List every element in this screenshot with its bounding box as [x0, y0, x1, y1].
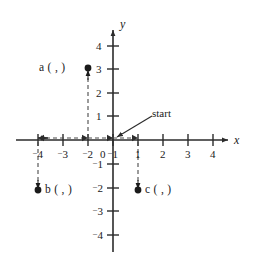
- start-annotation-leader: [117, 116, 152, 137]
- dashed-connectors: [38, 75, 138, 182]
- x-tick-label-1: 1: [135, 149, 141, 160]
- point-b-label: b ( , ): [45, 184, 72, 196]
- x-axis-label: x: [234, 134, 239, 146]
- x-tick-label-3: 3: [185, 149, 191, 160]
- y-tick-label-3: 3: [96, 64, 102, 75]
- x-tick-label-neg3: 3: [58, 149, 68, 160]
- coordinate-plane-svg: [0, 0, 258, 274]
- y-tick-label-2: 2: [96, 88, 102, 99]
- start-annotation-label: start: [152, 108, 171, 119]
- point-c-label: c ( , ): [145, 184, 171, 196]
- y-tick-label-neg4: 4: [93, 230, 103, 241]
- x-tick-label-4: 4: [210, 149, 216, 160]
- x-tick-label-2: 2: [160, 149, 166, 160]
- y-tick-label-1: 1: [96, 111, 102, 122]
- x-tick-label-neg1: 1: [108, 149, 118, 160]
- x-tick-label-neg4: 4: [33, 149, 43, 160]
- point-c-dot[interactable]: [135, 187, 142, 194]
- point-a-dot[interactable]: [85, 65, 92, 72]
- y-tick-label-neg2: 2: [93, 183, 103, 194]
- y-tick-label-neg3: 3: [93, 206, 103, 217]
- coordinate-plane-figure: x y 4 3 2 1 0 1 2 3 4 4 3 2 1 1 2 3 4 a …: [0, 0, 258, 274]
- y-axis-label: y: [120, 18, 125, 30]
- point-b-dot[interactable]: [35, 187, 42, 194]
- y-tick-label-4: 4: [96, 41, 102, 52]
- x-tick-label-neg2: 2: [83, 149, 93, 160]
- y-tick-label-neg1: 1: [93, 159, 103, 170]
- point-a-label: a ( , ): [39, 62, 65, 74]
